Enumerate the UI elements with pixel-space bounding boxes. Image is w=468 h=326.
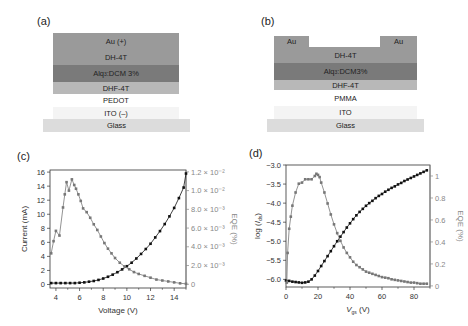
data-point (365, 270, 368, 273)
data-point (50, 252, 53, 255)
y2-tick-label: 0.4 (435, 238, 445, 247)
data-point (362, 208, 365, 211)
data-point (371, 273, 374, 276)
data-point (92, 280, 95, 283)
data-point (149, 276, 152, 279)
x-tick-label: 6 (77, 293, 81, 302)
y2-tick-label: 0.2 (435, 260, 445, 269)
y-tick-label: −5.5 (266, 256, 281, 265)
data-point (333, 223, 336, 226)
y-tick-label: 6 (41, 238, 45, 247)
data-point (167, 280, 170, 283)
data-point (419, 172, 422, 175)
y2-tick-label: 2.0 × 10⁻³ (191, 261, 225, 270)
data-point (320, 265, 323, 268)
x-tick-label: 14 (170, 293, 178, 302)
y2-tick-label: 0 (435, 282, 439, 291)
data-point (352, 218, 355, 221)
x-axis-label: Vgs (V) (346, 305, 370, 315)
data-point (426, 282, 429, 285)
data-point (310, 278, 313, 281)
data-point (102, 277, 105, 280)
data-point (362, 268, 365, 271)
data-point (68, 189, 71, 192)
data-point (116, 271, 119, 274)
plot-frame (50, 170, 186, 288)
data-point (185, 172, 188, 175)
data-point (410, 281, 413, 284)
data-point (387, 188, 390, 191)
data-point (333, 245, 336, 248)
data-point (294, 281, 297, 284)
y2-tick-label: 8.0 × 10⁻³ (191, 205, 225, 214)
data-point (330, 213, 333, 216)
data-point (413, 175, 416, 178)
y-tick-label: −3.0 (266, 161, 281, 170)
data-point (137, 273, 140, 276)
data-point (179, 282, 182, 285)
y2-tick-label: 0.6 (435, 216, 445, 225)
data-point (78, 281, 81, 284)
data-point (400, 182, 403, 185)
chart-d: 020406080−6.0−5.5−5.0−4.5−4.0−3.5−3.000.… (253, 161, 465, 315)
data-point (74, 282, 77, 285)
data-point (79, 200, 82, 203)
data-point (406, 281, 409, 284)
data-point (96, 229, 99, 232)
data-point (365, 204, 368, 207)
data-point (121, 268, 124, 271)
data-point (301, 282, 304, 285)
data-point (346, 226, 349, 229)
data-point (314, 274, 317, 277)
data-point (163, 223, 166, 226)
data-point (406, 178, 409, 181)
y-tick-label: 14 (37, 182, 45, 191)
x-tick-label: 12 (146, 293, 154, 302)
x-tick-label: 4 (54, 293, 58, 302)
data-point (286, 281, 289, 284)
y-tick-label: 8 (41, 224, 45, 233)
data-point (52, 240, 55, 243)
y-tick-label: 12 (37, 196, 45, 205)
data-point (173, 207, 176, 210)
data-point (394, 279, 397, 282)
data-point (133, 271, 136, 274)
data-point (378, 195, 381, 198)
data-point (419, 282, 422, 285)
data-point (92, 223, 95, 226)
data-point (349, 222, 352, 225)
data-point (317, 270, 320, 273)
data-point (426, 169, 429, 172)
y-tick-label: 10 (37, 210, 45, 219)
data-point (107, 247, 110, 250)
data-point (159, 230, 162, 233)
data-point (161, 279, 164, 282)
data-point (50, 282, 53, 285)
data-point (326, 202, 329, 205)
data-point (110, 252, 113, 255)
y2-tick-label: 1 (435, 172, 439, 181)
y-tick-label: 4 (41, 252, 45, 261)
data-point (318, 176, 321, 179)
data-point (114, 257, 117, 260)
data-point (413, 281, 416, 284)
data-point (118, 261, 121, 264)
data-point (173, 281, 176, 284)
data-point (323, 191, 326, 194)
x-tick-label: 0 (284, 292, 288, 301)
data-point (140, 253, 143, 256)
y2-tick-label: 6.0 × 10⁻³ (191, 224, 225, 233)
data-point (143, 275, 146, 278)
data-point (185, 282, 188, 285)
data-point (397, 279, 400, 282)
data-point (294, 191, 297, 194)
data-point (378, 275, 381, 278)
data-point (339, 235, 342, 238)
data-point (320, 181, 323, 184)
data-point (358, 266, 361, 269)
y2-tick-label: 1.2 × 10⁻² (191, 168, 225, 177)
data-point (149, 242, 152, 245)
data-point (82, 207, 85, 210)
data-point (100, 235, 103, 238)
x-axis-label: Voltage (V) (98, 306, 138, 315)
